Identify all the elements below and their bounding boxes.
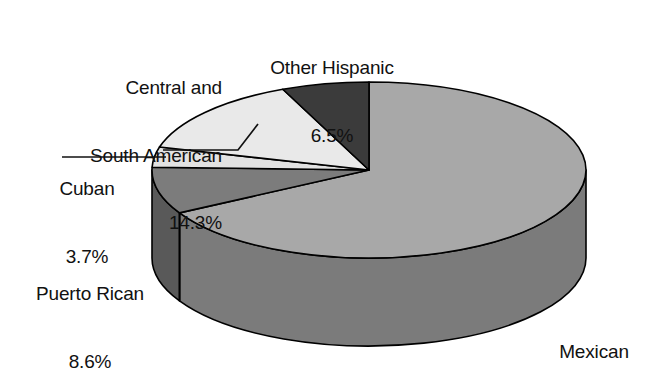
slice-label-line: Central and [22, 77, 222, 100]
slice-label-line: Puerto Rican [10, 283, 170, 306]
slice-label-other-hispanic: Other Hispanic 6.5% [232, 12, 432, 192]
slice-label-line: Other Hispanic [232, 57, 432, 80]
slice-label-line: Mexican [540, 341, 648, 364]
pie-chart-figure: Central and South American 14.3% Cuban 3… [0, 0, 654, 368]
slice-label-line: Cuban [12, 178, 162, 201]
slice-value: 6.5% [232, 125, 432, 148]
slice-label-puerto-rican: Puerto Rican 8.6% [10, 238, 170, 368]
slice-value: 8.6% [10, 351, 170, 368]
slice-label-mexican: Mexican 66.9% [540, 296, 648, 368]
